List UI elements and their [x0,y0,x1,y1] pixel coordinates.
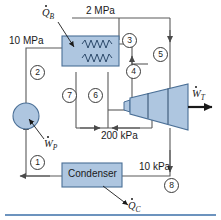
boiler-shape [62,36,119,66]
condenser-heat-symbol: Q [128,201,136,212]
state-point-3: 3 [122,33,137,48]
pressure-200-kpa: 200 kPa [101,131,138,141]
state-point-2: 2 [30,65,45,80]
turbine-shape [124,84,188,130]
boiler-heat-subscript: B [50,12,55,21]
state-point-7: 7 [62,88,77,103]
state-point-1: 1 [30,155,45,170]
state-point-5: 5 [153,47,168,62]
pump-work-subscript: P [53,143,58,152]
state-point-8: 8 [164,178,179,193]
qc-leader-arrow [103,186,128,205]
pump-work-label: WP [44,139,57,152]
pump-shape [13,103,39,129]
state-point-6: 6 [88,88,103,103]
turbine-work-symbol: W [192,89,201,100]
turbine-work-label: WT [192,89,205,102]
condenser-label: Condenser [68,169,117,179]
condenser-heat-label: QC [128,201,141,214]
pressure-2-mpa: 2 MPa [86,6,115,16]
diagram-canvas [0,0,221,220]
boiler-heat-label: QB [42,8,54,21]
boiler-heat-symbol: Q [42,8,50,19]
pressure-10-mpa: 10 MPa [9,36,43,46]
thermodynamic-cycle-diagram: QB WT WP QC Condenser 10 MPa 2 MPa 200 k… [0,0,221,220]
state-point-4: 4 [126,64,141,79]
pump-work-symbol: W [44,139,53,150]
pressure-10-kpa: 10 kPa [139,162,170,172]
condenser-heat-subscript: C [136,205,141,214]
line-2-pump-to-boiler [26,48,62,108]
turbine-work-subscript: T [201,93,205,102]
